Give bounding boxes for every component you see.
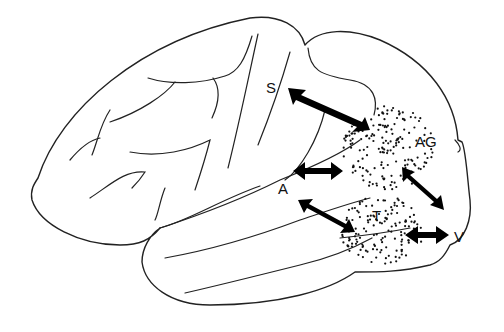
central-sulcus [228,34,258,168]
sylvian-fissure [160,186,260,228]
postcentral-sulcus [258,52,290,145]
occipital-notch [455,140,460,152]
inferior-frontal-sulcus [130,140,210,190]
label-s: S [266,80,276,95]
label-a: A [278,181,288,196]
superior-frontal-sulcus [148,36,252,83]
arrow-t-v [405,226,449,244]
frontal-branch-2 [92,110,110,155]
arrow-a-t [298,199,355,233]
frontal-branch-3 [70,138,100,160]
label-v: V [454,229,464,244]
inferior-frontal-branch [90,172,145,198]
frontal-branch-1 [212,78,218,118]
arrow-ag-v [402,167,444,210]
label-t: T [372,208,381,223]
middle-frontal-sulcus [110,82,175,122]
arrow-s-ag [288,88,370,132]
inferior-temporal-sulcus [185,238,372,293]
superior-temporal-sulcus [165,198,370,258]
temporal-upper-sulcus [160,140,360,228]
brain-diagram: S AG A T V [0,0,504,332]
brain-outline-svg [0,0,504,332]
precentral-lower [155,188,165,220]
label-ag: AG [415,134,437,149]
